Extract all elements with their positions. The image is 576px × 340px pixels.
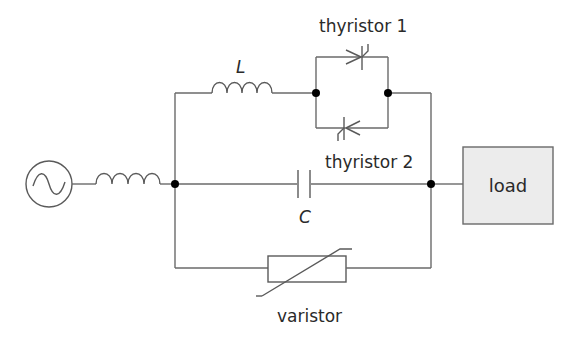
node-dot: [171, 180, 179, 188]
inductor-L: [212, 83, 272, 94]
thyristor-2-symbol: [338, 117, 360, 141]
load-block: load: [463, 147, 553, 224]
varistor-symbol: [256, 249, 352, 296]
node-dot: [312, 89, 320, 97]
thyristor-pair: [316, 44, 388, 141]
sine-wave-icon: [33, 174, 65, 195]
circuit-diagram: L thyristor 1 thyristor 2 C: [0, 0, 576, 340]
capacitor-C: [298, 170, 310, 198]
node-dot: [384, 89, 392, 97]
source-inductor: [96, 174, 160, 185]
load-label: load: [489, 175, 527, 196]
thyristor-1-label: thyristor 1: [319, 16, 407, 36]
varistor-label: varistor: [277, 306, 342, 326]
ac-source: [26, 161, 72, 207]
thyristor-2-label: thyristor 2: [325, 152, 413, 172]
node-dot: [427, 180, 435, 188]
capacitor-C-label: C: [299, 207, 311, 227]
inductor-L-label: L: [236, 57, 245, 77]
